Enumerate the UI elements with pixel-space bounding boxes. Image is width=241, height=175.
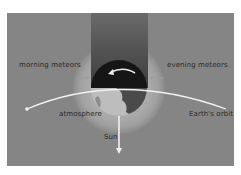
label-evening-meteors: evening meteors xyxy=(167,61,228,69)
label-morning-meteors: morning meteors xyxy=(19,61,81,69)
label-earths-orbit: Earth's orbit xyxy=(189,110,233,118)
label-sun: Sun xyxy=(104,133,118,141)
meteor-diagram xyxy=(7,13,234,166)
label-atmosphere: atmosphere xyxy=(59,110,102,118)
diagram-panel: morning meteors evening meteors atmosphe… xyxy=(7,13,234,166)
